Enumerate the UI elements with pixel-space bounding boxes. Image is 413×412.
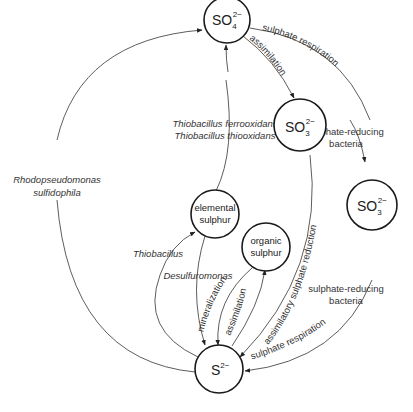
svg-text:mineralization: mineralization <box>195 274 229 333</box>
sulphur-cycle-diagram: sulphate respiration assimilation Thioba… <box>0 0 413 412</box>
label-mineralization: mineralization <box>195 274 229 333</box>
label-srb-top-2: bacteria <box>329 138 364 149</box>
sulfite-a-base: SO <box>285 119 305 135</box>
edge-thiobacillus-oxid-arrow <box>226 45 228 72</box>
node-sulfite-assimilatory: SO32− <box>274 99 326 151</box>
label-assimilation-bottom: assimilation <box>222 287 249 337</box>
sulfite-a-sup: 2− <box>306 117 315 126</box>
sulfite-b-sup: 2− <box>378 196 387 205</box>
node-sulfate: SO42− <box>204 0 250 43</box>
sulfate-sup: 2− <box>233 10 242 19</box>
label-srb-bottom-2: bacteria <box>329 295 364 306</box>
label-thiobacillus-ferrooxidans: Thiobacillus ferrooxidans <box>172 118 277 129</box>
sulfite-b-base: SO <box>357 198 377 214</box>
node-elemental-sulphur: elemental sulphur <box>191 190 239 238</box>
label-rhodopseudomonas: Rhodopseudomonas <box>13 174 101 185</box>
organic-line2: sulphur <box>250 247 281 258</box>
edge-rhodo-lower <box>57 200 195 372</box>
sulfate-sub: 4 <box>232 22 237 31</box>
label-assimilation-top: assimilation <box>248 32 289 77</box>
sulfide-base: S <box>211 362 220 378</box>
sulfite-b-sub: 3 <box>377 208 382 217</box>
elemental-line1: elemental <box>194 202 235 213</box>
sulfide-sup: 2− <box>220 361 229 370</box>
node-sulfide: S2− <box>195 345 243 393</box>
node-organic-sulphur: organic sulphur <box>242 223 290 271</box>
node-sulfite-dissimilatory: SO32− <box>347 180 397 230</box>
sulfate-base: SO <box>212 12 232 28</box>
label-srb-bottom-1: sulphate-reducing <box>308 283 384 294</box>
elemental-line2: sulphur <box>199 214 230 225</box>
label-thiobacillus: Thiobacillus <box>133 248 183 259</box>
svg-text:sulphate respiration: sulphate respiration <box>249 316 327 361</box>
sulfite-a-sub: 3 <box>305 129 310 138</box>
svg-text:assimilation: assimilation <box>248 32 289 77</box>
svg-text:assimilation: assimilation <box>222 287 249 337</box>
edge-labels: sulphate respiration assimilation Thioba… <box>13 21 384 361</box>
label-sulphate-respiration-bottom: sulphate respiration <box>249 316 327 361</box>
organic-line1: organic <box>250 235 281 246</box>
label-thiobacillus-thiooxidans: Thiobacillus thiooxidans <box>175 130 276 141</box>
label-sulfidophila: sulfidophila <box>33 187 81 198</box>
